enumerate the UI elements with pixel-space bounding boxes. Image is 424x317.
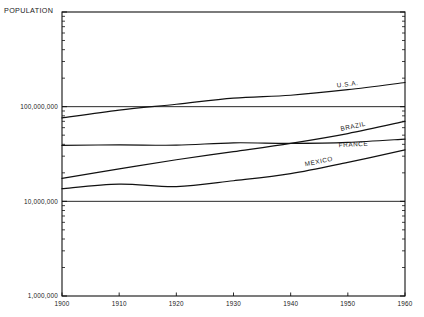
chart-canvas: 1,000,00010,000,000100,000,000 190019101… (0, 0, 424, 317)
x-tick-label-3: 1930 (226, 300, 241, 307)
series-line-usa (62, 83, 405, 118)
population-growth-chart: 1,000,00010,000,000100,000,000 190019101… (0, 0, 424, 317)
x-tick-label-2: 1920 (169, 300, 184, 307)
x-tick-label-5: 1950 (340, 300, 355, 307)
y-major-gridlines (62, 107, 405, 202)
y-tick-label-2: 100,000,000 (20, 103, 58, 110)
x-tick-label-0: 1900 (54, 300, 69, 307)
y-axis-title: POPULATION (4, 6, 53, 15)
y-tick-label-0: 1,000,000 (28, 292, 58, 299)
x-axis-tick-labels: 1900191019201930194019501960 (54, 300, 412, 307)
y-axis-tick-labels: 1,000,00010,000,000100,000,000 (20, 103, 58, 299)
x-tick-label-1: 1910 (112, 300, 127, 307)
plot-border (62, 12, 405, 296)
series-inline-labels: U.S.A.BRAZILFRANCEMEXICO (304, 79, 368, 167)
y-axis-ticks (62, 12, 405, 296)
x-tick-label-6: 1960 (397, 300, 412, 307)
plot-frame (62, 12, 405, 296)
x-tick-label-4: 1940 (283, 300, 298, 307)
series-label-france: FRANCE (338, 140, 368, 149)
data-series-group (62, 83, 405, 189)
series-line-brazil (62, 121, 405, 178)
series-label-mexico: MEXICO (304, 155, 333, 167)
series-label-usa: U.S.A. (336, 79, 358, 89)
y-tick-label-1: 10,000,000 (24, 198, 58, 205)
